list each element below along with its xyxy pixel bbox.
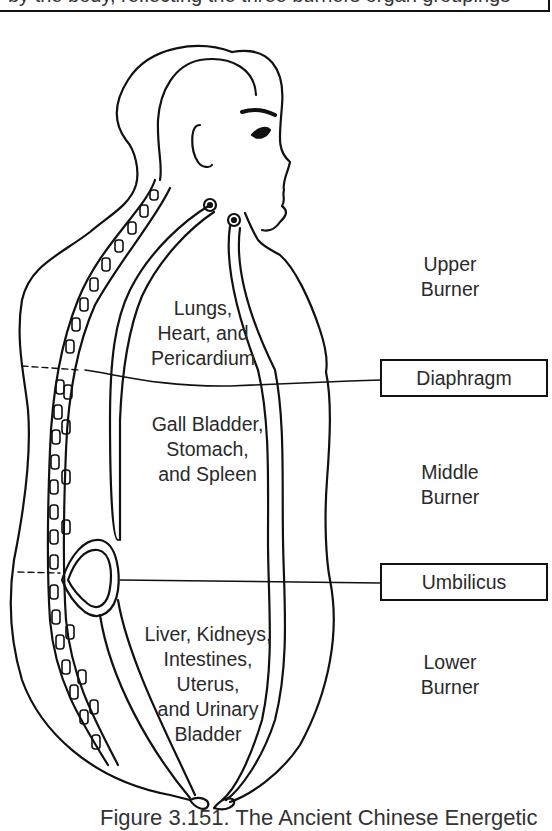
- umbilicus-loop-inner: [68, 550, 111, 607]
- diaphragm-box: Diaphragm: [380, 359, 548, 397]
- upper-organs-label: Lungs, Heart, and Pericardium: [128, 296, 278, 371]
- umbilicus-label: Umbilicus: [422, 571, 507, 593]
- umbilicus-line-dashed: [18, 572, 60, 573]
- diaphragm-label: Diaphragm: [416, 367, 511, 389]
- umbilicus-line: [120, 580, 380, 583]
- diaphragm-line-dashed: [22, 366, 80, 370]
- middle-organs-label: Gall Bladder, Stomach, and Spleen: [120, 412, 295, 487]
- inner-head-outline: [232, 51, 290, 231]
- upper-burner-label: Upper Burner: [395, 252, 505, 302]
- eyebrow: [242, 110, 275, 115]
- eye: [252, 128, 270, 138]
- diaphragm-line: [85, 370, 380, 386]
- figure-caption: Figure 3.151. The Ancient Chinese Energe…: [100, 805, 537, 831]
- lower-burner-label: Lower Burner: [395, 650, 505, 700]
- ear: [192, 125, 212, 167]
- front-channel-outer: [110, 205, 210, 540]
- umbilicus-box: Umbilicus: [380, 563, 548, 601]
- hair-outline: [158, 59, 256, 180]
- front-channel-inner: [120, 212, 214, 540]
- lower-organs-label: Liver, Kidneys, Intestines, Uterus, and …: [118, 622, 298, 747]
- middle-burner-label: Middle Burner: [395, 460, 505, 510]
